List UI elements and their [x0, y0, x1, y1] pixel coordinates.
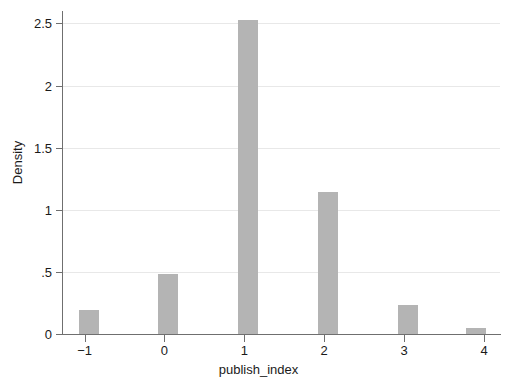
- bar: [398, 305, 418, 334]
- bar: [318, 192, 338, 334]
- bar: [158, 274, 178, 334]
- x-tick-mark: [164, 335, 165, 342]
- y-tick-label: 2.5: [34, 17, 52, 30]
- y-tick-mark: [56, 334, 63, 335]
- x-tick-label: 2: [304, 344, 344, 358]
- x-tick-label: −1: [65, 344, 105, 358]
- histogram-screenshot: 0.511.522.5 −101234 Density publish_inde…: [0, 0, 517, 380]
- x-tick-label: 0: [144, 344, 184, 358]
- y-tick-label: 0: [45, 328, 52, 341]
- y-tick-label: .5: [41, 266, 52, 279]
- x-tick-label: 1: [224, 344, 264, 358]
- y-axis-tick-labels: 0.511.522.5: [0, 0, 52, 380]
- y-tick-label: 1.5: [34, 142, 52, 155]
- y-tick-label: 1: [45, 204, 52, 217]
- y-tick-mark: [56, 148, 63, 149]
- x-axis-line: [62, 334, 501, 335]
- x-tick-mark: [244, 335, 245, 342]
- y-axis-line: [62, 11, 63, 335]
- gridline: [63, 148, 500, 149]
- plot-area: [63, 11, 500, 334]
- gridline: [63, 23, 500, 24]
- x-tick-mark: [324, 335, 325, 342]
- bar: [79, 310, 99, 334]
- x-tick-label: 3: [384, 344, 424, 358]
- x-tick-mark: [484, 335, 485, 342]
- gridline: [63, 86, 500, 87]
- x-axis-title: publish_index: [0, 362, 517, 377]
- y-tick-mark: [56, 86, 63, 87]
- y-tick-mark: [56, 210, 63, 211]
- x-tick-mark: [404, 335, 405, 342]
- bar: [238, 20, 258, 334]
- y-axis-title: Density: [10, 108, 25, 218]
- y-tick-mark: [56, 23, 63, 24]
- x-tick-mark: [85, 335, 86, 342]
- x-tick-label: 4: [464, 344, 504, 358]
- y-tick-mark: [56, 272, 63, 273]
- gridline: [63, 272, 500, 273]
- gridline: [63, 210, 500, 211]
- y-tick-label: 2: [45, 80, 52, 93]
